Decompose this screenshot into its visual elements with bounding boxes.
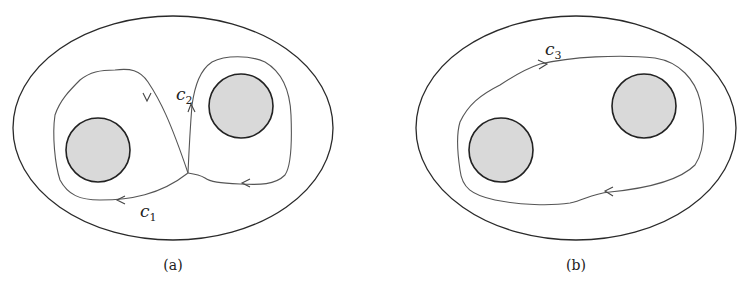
caption-a: (a) [163, 257, 182, 273]
hole-left [469, 118, 533, 182]
hole-right [209, 74, 273, 138]
label-c3: c3 [545, 39, 562, 62]
panel-b: c3 (b) [416, 16, 736, 273]
hole-left [66, 118, 130, 182]
figure: c2 c1 (a) c3 (b) [0, 0, 743, 293]
arrow-c1-bottom [117, 196, 125, 204]
label-c2: c2 [176, 84, 193, 107]
arrow-c1-top [143, 93, 151, 101]
arrow-c2-bottom [242, 179, 250, 187]
label-c1: c1 [140, 201, 157, 224]
outer-boundary [416, 16, 736, 240]
panel-a: c2 c1 (a) [13, 16, 333, 273]
caption-b: (b) [566, 257, 586, 273]
hole-right [612, 74, 676, 138]
outer-boundary [13, 16, 333, 240]
